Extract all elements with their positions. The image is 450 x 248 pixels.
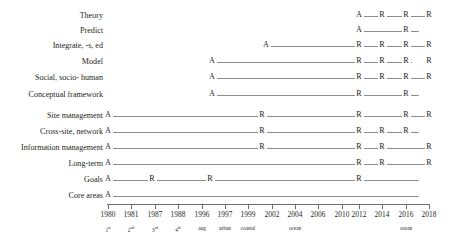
timeline-line [108,116,429,117]
timeline-marker-r: R [206,175,215,183]
row-label: Goals [84,175,103,184]
timeline-marker-a: A [104,111,113,119]
timeline-marker-r: R [425,57,434,65]
x-axis-tick [382,204,383,209]
x-axis-tick [202,204,203,209]
x-axis-tick [248,204,249,209]
timeline-marker-r: R [355,143,364,151]
timeline-marker-r: R [355,41,364,49]
timeline-marker-r: R [355,159,364,167]
timeline-marker-a: A [104,191,113,199]
timeline-marker-r: R [402,26,411,34]
row-label: Core areas [69,191,103,200]
timeline-marker-r: R [425,73,434,81]
timeline-marker-r: R [258,111,267,119]
timeline-marker-a: A [208,73,217,81]
timeline-marker-r: R [402,111,411,119]
timeline-marker-a: A [104,175,113,183]
row-label: Integrate, -s, ed [53,41,103,50]
timeline-marker-r: R [355,73,364,81]
timeline-marker-a: A [208,57,217,65]
timeline-marker-r: R [258,127,267,135]
x-axis-sub-label: coastal [231,225,265,232]
x-axis-tick [429,204,430,209]
timeline-marker-r: R [402,127,411,135]
x-axis-sub-label-ordinal: rd [155,226,158,230]
timeline-marker-a: A [208,90,217,98]
timeline-marker-r: R [425,159,434,167]
row-label: Social, socio- human [35,73,103,82]
row-label: Theory [80,11,103,20]
timeline-line [108,196,419,197]
timeline-marker-r: R [378,143,387,151]
timeline-marker-r: R [402,90,411,98]
x-axis-sub-label-ordinal: st [108,226,111,230]
timeline-marker-r: R [425,11,434,19]
timeline-marker-r: R [378,159,387,167]
x-axis-tick [318,204,319,209]
timeline-marker-r: R [425,41,434,49]
timeline-marker-a: A [262,41,271,49]
timeline-marker-r: R [355,57,364,65]
timeline-line [359,16,429,17]
timeline-line [212,95,419,96]
timeline-marker-r: R [378,127,387,135]
x-axis-tick [178,204,179,209]
timeline-marker-a: A [104,159,113,167]
timeline-marker-a: A [355,11,364,19]
x-axis-tick [406,204,407,209]
row-label: Predict [80,26,103,35]
timeline-marker-a: A [355,26,364,34]
timeline-chart: TheoryARRRPredictARIntegrate, -s, edARRR… [0,0,450,248]
timeline-marker-r: R [402,57,411,65]
timeline-marker-r: R [378,41,387,49]
x-axis-tick [131,204,132,209]
x-axis-tick [295,204,296,209]
timeline-marker-r: R [378,73,387,81]
row-label: Site management [47,111,103,120]
timeline-marker-r: R [355,90,364,98]
timeline-marker-a: A [104,127,113,135]
x-axis-tick [272,204,273,209]
x-axis-tick [108,204,109,209]
timeline-marker-r: R [402,41,411,49]
x-axis-tick [155,204,156,209]
row-label: Information management [21,143,103,152]
x-axis-sub-label: ocean [278,225,312,232]
timeline-marker-r: R [378,11,387,19]
x-axis-sub-label-ordinal: nd [130,226,134,230]
row-label: Model [82,57,103,66]
x-axis-sub-label: ocean [389,225,423,232]
timeline-marker-r: R [355,127,364,135]
x-axis-year-label: 2018 [412,210,446,219]
row-label: Conceptual framework [29,90,103,99]
timeline-marker-r: R [148,175,157,183]
timeline-line [212,78,429,79]
timeline-marker-r: R [355,111,364,119]
timeline-marker-a: A [104,143,113,151]
timeline-marker-r: R [402,11,411,19]
row-label: Cross-site, network [40,127,103,136]
x-axis-sub-label-ordinal: th [178,226,181,230]
timeline-marker-r: R [378,57,387,65]
timeline-marker-r: R [425,143,434,151]
x-axis-tick [342,204,343,209]
timeline-marker-r: R [425,111,434,119]
row-label: Long-term [68,159,103,168]
x-axis-tick [359,204,360,209]
timeline-marker-r: R [258,143,267,151]
timeline-marker-r: R [355,175,364,183]
timeline-marker-r: R [402,73,411,81]
x-axis-tick [225,204,226,209]
